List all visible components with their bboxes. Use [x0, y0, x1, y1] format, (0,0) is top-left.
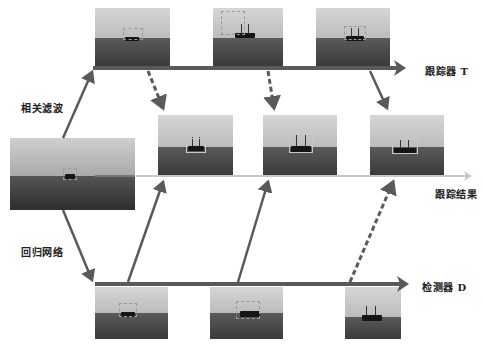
regression-network-label: 回归网络 [21, 244, 63, 259]
detector-d-label: 检测器 D [422, 279, 467, 294]
correlation-filter-label: 相关滤波 [21, 100, 63, 115]
arrows-layer [0, 0, 482, 348]
tracker-t-label: 跟踪器 T [425, 63, 468, 78]
tracking-result-label: 跟踪结果 [435, 186, 477, 201]
